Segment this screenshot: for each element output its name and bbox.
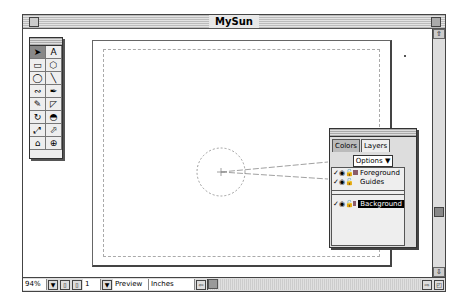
- page-number[interactable]: 1: [83, 279, 101, 290]
- window-title: MySun: [209, 15, 259, 28]
- scroll-down-icon[interactable]: ⇩: [433, 267, 445, 277]
- lock-icon[interactable]: 🔓: [345, 178, 351, 186]
- layers-panel: Colors Layers Options ▼ ✓ ◉ 🔓 Foreground…: [329, 128, 417, 248]
- view-mode-select[interactable]: Preview: [113, 279, 149, 290]
- zoom-box[interactable]: [431, 17, 441, 27]
- options-label: Options: [356, 157, 383, 165]
- layer-name: Guides: [360, 178, 384, 186]
- layer-row-foreground[interactable]: ✓ ◉ 🔓 Foreground: [332, 168, 404, 177]
- vertical-scroll-thumb[interactable]: [434, 207, 444, 217]
- ellipse-tool[interactable]: ◯: [30, 72, 46, 85]
- layer-name: Background: [358, 200, 404, 208]
- bezigon-tool[interactable]: ◸: [46, 98, 62, 111]
- units-select[interactable]: Inches: [149, 279, 195, 290]
- layer-color-swatch[interactable]: [353, 170, 358, 175]
- polygon-tool[interactable]: ⬡: [46, 59, 62, 72]
- page-dropdown-icon[interactable]: ▼: [102, 280, 112, 290]
- chevron-down-icon: ▼: [385, 157, 390, 165]
- zoom-level[interactable]: 94%: [23, 279, 47, 290]
- title-bar[interactable]: MySun: [23, 15, 445, 29]
- vertical-scrollbar[interactable]: ⇧ ⇩: [432, 29, 445, 277]
- toolbox-palette: ➤ A ▭ ⬡ ◯ ╲ ∾ ✒ ✎ ◸ ↻ ◓ ⤢ ⬀ ⌂ ⊕: [29, 37, 63, 159]
- printable-divider[interactable]: [332, 190, 404, 195]
- page-next-icon[interactable]: ▯: [72, 280, 82, 290]
- close-box[interactable]: [29, 17, 39, 27]
- layer-row-guides[interactable]: ✓ ◉ 🔓 Guides: [332, 177, 404, 186]
- zoom-tool[interactable]: ⊕: [46, 137, 62, 150]
- scroll-left-icon[interactable]: ⇦: [196, 280, 206, 290]
- lock-icon[interactable]: 🔓: [345, 200, 351, 208]
- layer-color-swatch: [353, 179, 358, 184]
- scale-tool[interactable]: ⤢: [30, 124, 46, 137]
- zoom-dropdown-icon[interactable]: ▼: [48, 280, 58, 290]
- rotate-tool[interactable]: ↻: [30, 111, 46, 124]
- freehand-tool[interactable]: ∾: [30, 85, 46, 98]
- reflect-tool[interactable]: ◓: [46, 111, 62, 124]
- horizontal-scroll-thumb[interactable]: [208, 279, 218, 289]
- layer-color-swatch[interactable]: [353, 201, 356, 206]
- layer-name: Foreground: [360, 169, 400, 177]
- tab-colors[interactable]: Colors: [332, 139, 360, 152]
- horizontal-scrollbar[interactable]: [207, 279, 421, 290]
- trace-tool[interactable]: ⌂: [30, 137, 46, 150]
- line-tool[interactable]: ╲: [46, 72, 62, 85]
- stray-point: [404, 55, 406, 57]
- layer-list: ✓ ◉ 🔓 Foreground ✓ ◉ 🔓 Guides ✓ ◉ 🔓 Back…: [331, 167, 405, 246]
- layer-row-background[interactable]: ✓ ◉ 🔓 Background: [332, 199, 404, 208]
- knife-tool[interactable]: ✎: [30, 98, 46, 111]
- scroll-up-icon[interactable]: ⇧: [433, 29, 445, 39]
- lock-icon[interactable]: 🔓: [345, 169, 351, 177]
- panel-title-bar[interactable]: [330, 129, 416, 137]
- skew-tool[interactable]: ⬀: [46, 124, 62, 137]
- panel-scrollbar[interactable]: [404, 167, 415, 246]
- text-tool[interactable]: A: [46, 46, 62, 59]
- rectangle-tool[interactable]: ▭: [30, 59, 46, 72]
- page-prev-icon[interactable]: ▯: [60, 280, 70, 290]
- status-bar: 94% ▼ ▯ ▯ 1 ▼ Preview Inches ⇦ ⇨ ◰: [23, 277, 445, 291]
- options-button[interactable]: Options ▼: [353, 155, 393, 167]
- toolbox-title-bar[interactable]: [30, 38, 62, 46]
- resize-icon[interactable]: ◰: [434, 280, 444, 290]
- pointer-tool[interactable]: ➤: [30, 46, 46, 59]
- scroll-right-icon[interactable]: ⇨: [422, 280, 432, 290]
- pen-tool[interactable]: ✒: [46, 85, 62, 98]
- tab-layers[interactable]: Layers: [361, 139, 390, 152]
